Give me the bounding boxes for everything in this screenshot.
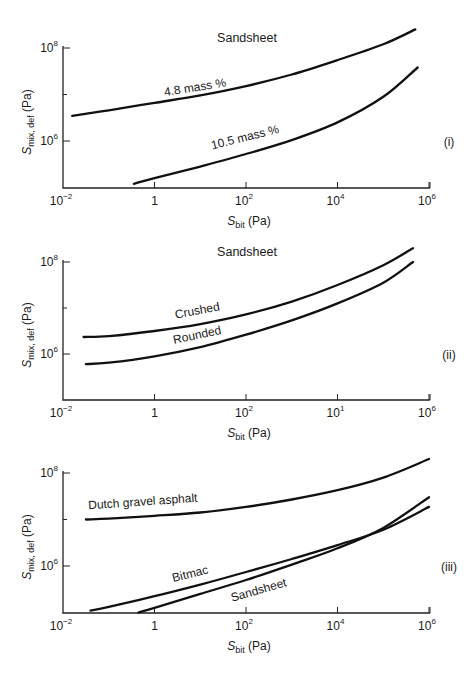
panel-id-label: (iii) bbox=[441, 560, 457, 574]
series-curve bbox=[86, 459, 429, 520]
y-tick-label: 106 bbox=[40, 132, 58, 148]
curve-label: Sandsheet bbox=[229, 575, 289, 604]
curve-label: Bitmac bbox=[171, 563, 210, 585]
y-axis-title: Smix, def (Pa) bbox=[20, 302, 36, 368]
panel-title: Sandsheet bbox=[217, 31, 277, 45]
x-axis-title: Sbit (Pa) bbox=[227, 426, 271, 442]
x-tick-label: 1 bbox=[151, 194, 158, 208]
panel-id-label: (ii) bbox=[442, 348, 455, 362]
y-tick-label: 108 bbox=[40, 253, 58, 269]
x-tick-label: 102 bbox=[235, 404, 253, 420]
y-axis-title: Smix, def (Pa) bbox=[20, 514, 36, 580]
x-tick-label: 106 bbox=[418, 404, 436, 420]
y-tick-label: 106 bbox=[40, 557, 58, 573]
x-tick-label: 104 bbox=[327, 192, 345, 208]
figure: 10810610−21102104106Sbit (Pa)Smix, def (… bbox=[0, 0, 475, 682]
panel-title: Sandsheet bbox=[217, 245, 277, 259]
chart-canvas: 10810610−21102104106Sbit (Pa)Smix, def (… bbox=[0, 0, 475, 682]
x-tick-label: 102 bbox=[235, 617, 253, 633]
panel-id-label: (i) bbox=[444, 135, 455, 149]
x-tick-label: 10−2 bbox=[50, 192, 73, 208]
curve-label: Crushed bbox=[174, 299, 221, 321]
curve-label: Dutch gravel asphalt bbox=[88, 491, 199, 513]
y-tick-label: 108 bbox=[40, 464, 58, 480]
y-tick-label: 106 bbox=[40, 345, 58, 361]
x-tick-label: 106 bbox=[418, 192, 436, 208]
x-tick-label: 1 bbox=[151, 406, 158, 420]
x-tick-label: 10−2 bbox=[50, 404, 73, 420]
y-tick-label: 108 bbox=[40, 39, 58, 55]
x-tick-label: 104 bbox=[327, 617, 345, 633]
x-tick-label: 1 bbox=[151, 619, 158, 633]
panel-i: 10810610−21102104106Sbit (Pa)Smix, def (… bbox=[20, 29, 454, 230]
y-axis-title: Smix, def (Pa) bbox=[20, 89, 36, 155]
x-tick-label: 101 bbox=[327, 404, 345, 420]
x-axis-title: Sbit (Pa) bbox=[227, 639, 271, 655]
panel-iii: 10810610−21102104106Sbit (Pa)Smix, def (… bbox=[20, 459, 457, 655]
x-tick-label: 10−2 bbox=[50, 617, 73, 633]
x-tick-label: 102 bbox=[235, 192, 253, 208]
axes-frame bbox=[63, 260, 430, 400]
x-axis-title: Sbit (Pa) bbox=[227, 214, 271, 230]
panel-ii: 10810610−21102101106Sbit (Pa)Smix, def (… bbox=[20, 245, 456, 442]
x-tick-label: 106 bbox=[418, 617, 436, 633]
axes-frame bbox=[63, 46, 430, 188]
